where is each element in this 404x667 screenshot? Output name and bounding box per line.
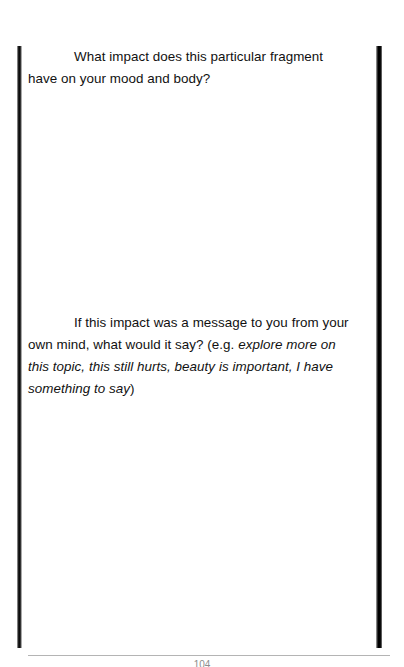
page-edge-shadow-right-icon: [376, 46, 382, 648]
page-number: 104: [0, 659, 404, 667]
page-body: What impact does this particular fragmen…: [28, 46, 356, 400]
paragraph-message-question: If this impact was a message to you from…: [28, 312, 356, 400]
scanned-page: What impact does this particular fragmen…: [0, 0, 404, 667]
paragraph-impact-question-text: What impact does this particular fragmen…: [28, 49, 323, 86]
paragraph-impact-question: What impact does this particular fragmen…: [28, 46, 356, 90]
answer-space-impact: [28, 90, 356, 312]
footer-separator: [28, 655, 390, 656]
page-edge-shadow-left-icon: [17, 46, 22, 648]
paragraph-message-question-close-paren: ): [130, 381, 135, 396]
